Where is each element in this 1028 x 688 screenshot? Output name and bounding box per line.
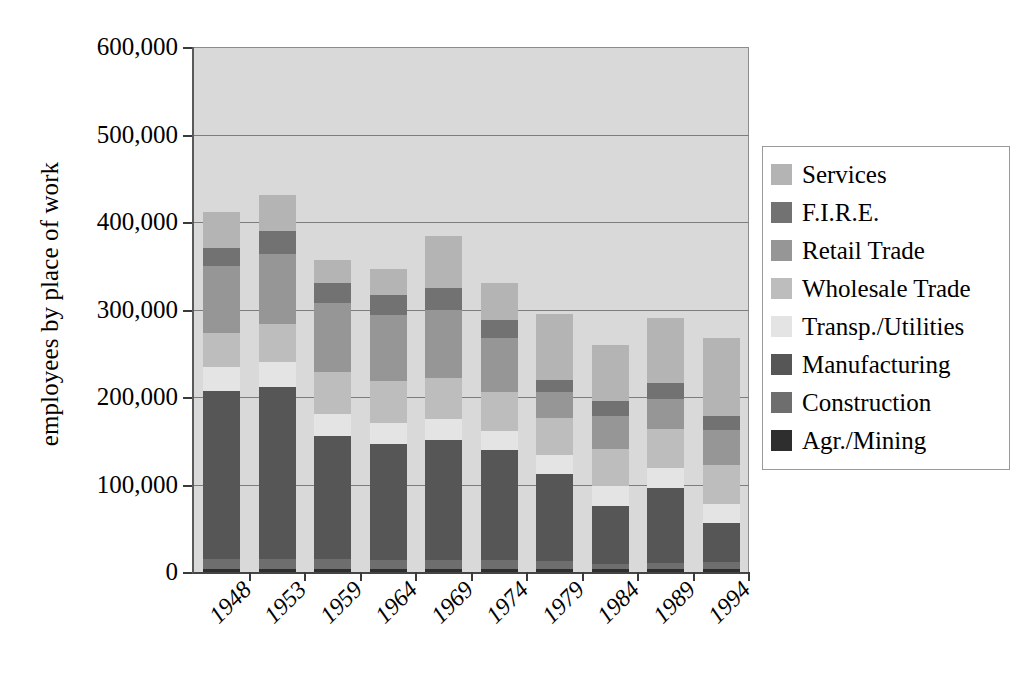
bar-segment-transp-utilities[interactable] [647, 468, 684, 488]
legend-item[interactable]: Retail Trade [771, 231, 1003, 269]
bar-segment-construction[interactable] [425, 560, 462, 570]
bar-segment-agr-mining[interactable] [259, 569, 296, 573]
chart-legend: ServicesF.I.R.E.Retail TradeWholesale Tr… [762, 146, 1010, 470]
bar-segment-construction[interactable] [259, 559, 296, 569]
bar-segment-construction[interactable] [481, 560, 518, 570]
bar-segment-transp-utilities[interactable] [314, 414, 351, 436]
bar-segment-transp-utilities[interactable] [536, 455, 573, 474]
bar-1984[interactable] [592, 345, 629, 572]
bar-segment-wholesale-trade[interactable] [203, 333, 240, 367]
bar-segment-f-i-r-e[interactable] [481, 320, 518, 338]
bar-segment-wholesale-trade[interactable] [703, 465, 740, 504]
bar-1953[interactable] [259, 195, 296, 572]
bar-segment-transp-utilities[interactable] [703, 504, 740, 523]
bar-segment-manufacturing[interactable] [536, 474, 573, 561]
bar-segment-f-i-r-e[interactable] [370, 295, 407, 315]
bar-segment-construction[interactable] [592, 564, 629, 569]
bar-segment-construction[interactable] [370, 560, 407, 570]
bar-segment-retail-trade[interactable] [203, 266, 240, 333]
bar-segment-wholesale-trade[interactable] [481, 392, 518, 431]
bar-segment-transp-utilities[interactable] [592, 486, 629, 505]
bar-segment-services[interactable] [536, 314, 573, 381]
bar-segment-f-i-r-e[interactable] [703, 416, 740, 430]
legend-item[interactable]: Construction [771, 383, 1003, 421]
bar-segment-wholesale-trade[interactable] [647, 429, 684, 468]
bar-segment-wholesale-trade[interactable] [425, 378, 462, 419]
bar-segment-transp-utilities[interactable] [259, 362, 296, 387]
bar-segment-f-i-r-e[interactable] [203, 248, 240, 266]
bar-segment-transp-utilities[interactable] [203, 367, 240, 391]
legend-item[interactable]: Agr./Mining [771, 421, 1003, 459]
bar-1989[interactable] [647, 318, 684, 572]
bar-segment-construction[interactable] [314, 559, 351, 570]
bar-segment-wholesale-trade[interactable] [536, 418, 573, 455]
bar-segment-agr-mining[interactable] [203, 569, 240, 573]
bar-segment-retail-trade[interactable] [370, 315, 407, 382]
bar-segment-retail-trade[interactable] [703, 430, 740, 465]
bar-segment-manufacturing[interactable] [703, 523, 740, 562]
bar-1959[interactable] [314, 260, 351, 572]
bar-segment-services[interactable] [481, 283, 518, 320]
bar-segment-transp-utilities[interactable] [425, 419, 462, 440]
bar-segment-retail-trade[interactable] [536, 392, 573, 418]
bar-segment-services[interactable] [370, 269, 407, 294]
bar-1974[interactable] [481, 283, 518, 572]
bar-segment-agr-mining[interactable] [425, 569, 462, 572]
bar-segment-construction[interactable] [703, 562, 740, 569]
bar-segment-agr-mining[interactable] [481, 569, 518, 572]
bar-segment-agr-mining[interactable] [370, 569, 407, 572]
bar-segment-agr-mining[interactable] [536, 569, 573, 572]
bar-segment-construction[interactable] [536, 561, 573, 570]
bar-segment-manufacturing[interactable] [425, 440, 462, 560]
bar-segment-transp-utilities[interactable] [481, 431, 518, 450]
legend-item[interactable]: F.I.R.E. [771, 193, 1003, 231]
bar-1964[interactable] [370, 269, 407, 572]
bar-1969[interactable] [425, 236, 462, 572]
bar-segment-retail-trade[interactable] [259, 254, 296, 324]
bar-1948[interactable] [203, 212, 240, 572]
bar-segment-services[interactable] [259, 195, 296, 231]
bar-segment-wholesale-trade[interactable] [259, 324, 296, 363]
bar-segment-services[interactable] [647, 318, 684, 383]
bar-segment-f-i-r-e[interactable] [647, 383, 684, 399]
bar-segment-manufacturing[interactable] [481, 450, 518, 559]
bar-segment-wholesale-trade[interactable] [370, 381, 407, 423]
bar-segment-services[interactable] [592, 345, 629, 401]
bar-segment-agr-mining[interactable] [592, 569, 629, 572]
legend-item[interactable]: Transp./Utilities [771, 307, 1003, 345]
bar-segment-agr-mining[interactable] [647, 569, 684, 572]
bar-segment-manufacturing[interactable] [203, 391, 240, 559]
bar-segment-f-i-r-e[interactable] [425, 288, 462, 310]
bar-segment-agr-mining[interactable] [314, 569, 351, 572]
bar-segment-wholesale-trade[interactable] [314, 372, 351, 414]
bar-segment-f-i-r-e[interactable] [314, 283, 351, 303]
bar-segment-manufacturing[interactable] [592, 506, 629, 565]
bar-segment-agr-mining[interactable] [703, 569, 740, 572]
bar-segment-services[interactable] [703, 338, 740, 417]
bar-segment-construction[interactable] [203, 559, 240, 569]
bar-segment-manufacturing[interactable] [647, 488, 684, 563]
bar-segment-services[interactable] [203, 212, 240, 248]
bar-1979[interactable] [536, 314, 573, 572]
bar-segment-services[interactable] [314, 260, 351, 284]
bar-segment-retail-trade[interactable] [647, 399, 684, 429]
legend-item[interactable]: Manufacturing [771, 345, 1003, 383]
bar-segment-retail-trade[interactable] [425, 310, 462, 378]
bar-1994[interactable] [703, 338, 740, 573]
bar-segment-construction[interactable] [647, 563, 684, 569]
bar-segment-retail-trade[interactable] [314, 303, 351, 371]
bar-segment-wholesale-trade[interactable] [592, 449, 629, 487]
bar-segment-f-i-r-e[interactable] [259, 231, 296, 254]
bar-segment-manufacturing[interactable] [314, 436, 351, 559]
bar-segment-transp-utilities[interactable] [370, 423, 407, 444]
bar-segment-f-i-r-e[interactable] [536, 380, 573, 391]
legend-item[interactable]: Wholesale Trade [771, 269, 1003, 307]
bar-segment-manufacturing[interactable] [259, 387, 296, 559]
x-axis-tick-label: 1959 [315, 576, 368, 629]
legend-item[interactable]: Services [771, 155, 1003, 193]
bar-segment-f-i-r-e[interactable] [592, 401, 629, 416]
bar-segment-retail-trade[interactable] [481, 338, 518, 392]
bar-segment-manufacturing[interactable] [370, 444, 407, 560]
bar-segment-services[interactable] [425, 236, 462, 288]
bar-segment-retail-trade[interactable] [592, 416, 629, 448]
